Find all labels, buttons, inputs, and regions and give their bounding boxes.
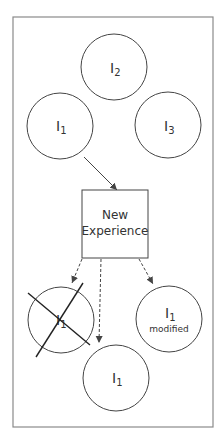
dashed-arrow-to-unchanged [99, 259, 101, 343]
new-experience-box: New Experience [82, 190, 149, 258]
node-i2: I2 [81, 34, 147, 100]
svg-text:Experience: Experience [82, 224, 149, 238]
svg-text:I1: I1 [165, 305, 176, 323]
node-rejected-crossed: I1 [28, 283, 94, 357]
svg-text:I1: I1 [56, 118, 67, 136]
dashed-arrow-to-modified [139, 259, 153, 284]
svg-text:I1: I1 [112, 370, 123, 388]
dashed-arrow-to-rejected [72, 259, 82, 283]
cross-line-2 [36, 283, 83, 357]
arrow-i1-to-experience [84, 157, 117, 190]
svg-text:modified: modified [149, 324, 188, 334]
node-modified: I1 modified [136, 286, 202, 352]
svg-text:I3: I3 [164, 118, 175, 136]
cross-line-1 [28, 293, 90, 345]
node-i3: I3 [135, 92, 201, 158]
svg-text:New: New [102, 208, 128, 222]
diagram-canvas: I2 I1 I3 New Experience I1 I1 modified I… [0, 0, 224, 438]
node-i1: I1 [27, 93, 93, 159]
node-unchanged: I1 [83, 345, 149, 411]
svg-text:I2: I2 [110, 60, 121, 78]
